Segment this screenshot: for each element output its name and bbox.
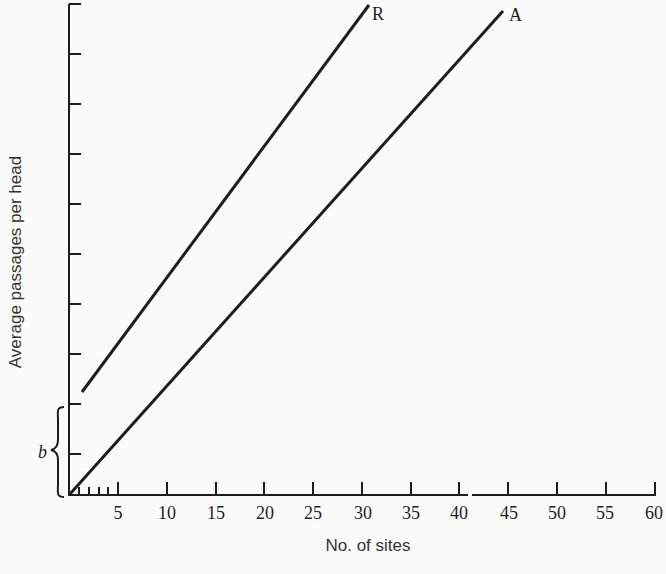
x-tick-label: 25 <box>304 503 322 523</box>
x-tick-label: 15 <box>207 503 225 523</box>
chart: 5 10 15 20 25 30 35 40 45 50 55 60 No. o… <box>0 0 666 574</box>
line-r <box>82 5 369 392</box>
x-tick-label: 10 <box>158 503 176 523</box>
x-tick-label: 35 <box>402 503 420 523</box>
line-a-label: A <box>509 5 522 25</box>
x-tick-label: 50 <box>548 503 566 523</box>
x-tick-label: 30 <box>354 503 372 523</box>
x-tick-label: 40 <box>450 503 468 523</box>
line-a <box>70 11 503 494</box>
x-axis-title: No. of sites <box>325 536 410 555</box>
x-tick-label: 5 <box>114 503 123 523</box>
x-tick-label: 60 <box>645 503 663 523</box>
x-axis <box>68 482 656 495</box>
brace-icon <box>51 407 64 497</box>
y-axis <box>69 4 81 495</box>
y-axis-title: Average passages per head <box>6 156 25 368</box>
x-tick-labels: 5 10 15 20 25 30 35 40 45 50 55 60 <box>114 503 664 523</box>
x-tick-label: 45 <box>500 503 518 523</box>
x-tick-label: 20 <box>256 503 274 523</box>
x-tick-label: 55 <box>596 503 614 523</box>
brace-label: b <box>38 442 47 462</box>
line-r-label: R <box>372 4 384 24</box>
